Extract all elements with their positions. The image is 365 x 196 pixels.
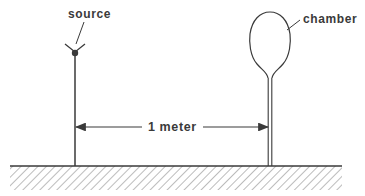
source-leader-line xyxy=(76,22,84,44)
source-label: source xyxy=(68,7,111,21)
chamber-bulb xyxy=(250,12,291,78)
source-chamber-diagram: source chamber 1 meter xyxy=(0,0,365,196)
chamber-assembly: chamber xyxy=(250,12,358,166)
ground xyxy=(10,166,342,190)
chamber-label: chamber xyxy=(303,12,357,26)
chamber-leader-line xyxy=(287,20,300,30)
distance-dimension: 1 meter xyxy=(76,120,268,134)
ground-hatching xyxy=(10,166,342,190)
distance-label: 1 meter xyxy=(148,120,197,134)
source-assembly: source xyxy=(65,7,111,166)
